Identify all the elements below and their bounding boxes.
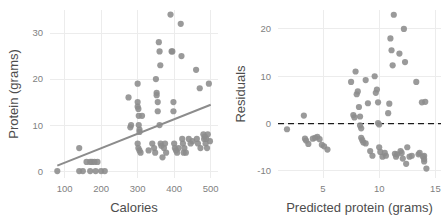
data-point [375,99,381,105]
data-point [137,150,143,156]
data-point [358,125,364,131]
data-point [125,94,131,100]
data-point [167,12,173,18]
y-tick-label: 10 [32,120,43,131]
data-point [175,145,181,151]
data-point [156,39,162,45]
x-tick-label: 5 [320,183,325,194]
y-tick-label: 30 [32,27,43,38]
data-point [388,47,394,53]
data-point [135,81,141,87]
y-tick-label: 20 [32,73,43,84]
data-point [400,156,406,162]
y-tick-label: 0 [38,166,43,177]
data-point [207,138,213,144]
data-point [324,147,330,153]
scatter-plot-residuals-vs-predicted: -100102051015Predicted protein (grams)Re… [223,0,447,223]
x-tick-label: 300 [130,183,146,194]
data-point [421,158,427,164]
data-point [197,85,203,91]
x-tick-label: 200 [93,183,109,194]
x-tick-label: 400 [166,183,182,194]
data-point [383,153,389,159]
data-point [390,62,396,68]
data-point [399,150,405,156]
scatter-plot-protein-vs-calories: 0102030100200300400500CaloriesProtein (g… [0,0,224,223]
y-axis-title: Protein (grams) [6,49,21,139]
data-point [156,48,162,54]
data-point [163,150,169,156]
data-point [80,168,86,174]
x-axis-title: Calories [110,200,158,215]
data-point [94,159,100,165]
data-point [157,62,163,68]
data-point [206,81,212,87]
y-axis-tick-labels: 0102030 [32,27,43,176]
x-tick-label: 100 [57,183,73,194]
data-point [197,145,203,151]
data-point [403,161,409,167]
data-point [155,99,161,105]
x-axis-title: Predicted protein (grams) [286,200,433,215]
data-points-group [284,12,430,172]
data-point [205,131,211,137]
data-point [363,77,369,83]
panel-residuals-vs-predicted: -100102051015Predicted protein (grams)Re… [223,0,447,223]
data-point [387,35,393,41]
x-tick-label: 10 [374,183,385,194]
data-point [139,113,145,119]
data-point [284,126,290,132]
data-point [413,79,419,85]
data-point [193,67,199,73]
data-point [155,108,161,114]
data-point [372,73,378,79]
data-point [355,88,361,94]
regression-trend-line [57,105,210,166]
data-point [102,168,108,174]
data-point [93,168,99,174]
data-point [365,100,371,106]
data-point [170,99,176,105]
data-point [401,26,407,32]
data-point [204,145,210,151]
y-tick-label: -10 [257,165,271,176]
data-point [386,101,392,107]
data-point [154,92,160,98]
gridlines [50,10,218,178]
data-point [183,150,189,156]
x-tick-label: 500 [203,183,219,194]
data-point [178,21,184,27]
x-axis-tick-labels: 51015 [320,183,440,194]
data-point [301,112,307,118]
data-point [422,99,428,105]
data-point [153,76,159,82]
data-point [135,106,141,112]
y-axis-title: Residuals [233,65,248,123]
data-point [169,48,175,54]
data-point [152,150,158,156]
data-point [351,114,357,120]
y-tick-label: 20 [260,23,271,34]
data-point [363,140,369,146]
data-point [402,59,408,65]
y-tick-label: 0 [266,118,271,129]
x-axis-tick-labels: 100200300400500 [57,183,219,194]
y-axis-tick-labels: -1001020 [257,23,271,176]
data-point [178,53,184,59]
x-tick-label: 15 [430,183,441,194]
data-point [170,108,176,114]
panel-protein-vs-calories: 0102030100200300400500CaloriesProtein (g… [0,0,224,223]
data-point [369,153,375,159]
data-point [76,145,82,151]
data-point [396,50,402,56]
data-point [391,12,397,18]
data-point [305,141,311,147]
y-tick-label: 10 [260,71,271,82]
data-point [316,136,322,142]
data-point [146,147,152,153]
data-point [356,104,362,110]
data-point [348,79,354,85]
data-point [357,113,363,119]
data-point [421,153,427,159]
data-point [352,68,358,74]
